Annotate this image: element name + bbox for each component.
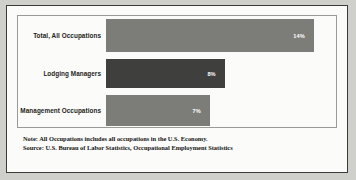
bar-track: 7% (106, 95, 336, 126)
bar-lodging-managers[interactable]: 8% (106, 59, 225, 88)
bar-total-all-occupations[interactable]: 14% (106, 19, 314, 52)
bar-value-label: 14% (293, 33, 314, 39)
bar-row: Management Occupations 7% (18, 95, 336, 126)
category-label-total-all-occupations: Total, All Occupations (18, 32, 106, 40)
bar-value-label: 8% (207, 71, 224, 77)
category-label-management-occupations: Management Occupations (18, 107, 106, 115)
bar-row: Total, All Occupations 14% (18, 19, 336, 52)
bar-row: Lodging Managers 8% (18, 59, 336, 88)
bar-value-label: 7% (193, 108, 210, 114)
bar-management-occupations[interactable]: 7% (106, 95, 210, 126)
plot-area: Total, All Occupations 14% Lodging Manag… (17, 15, 337, 128)
category-label-lodging-managers: Lodging Managers (18, 70, 106, 78)
bar-track: 8% (106, 59, 336, 88)
footnote-note: Note: All Occupations includes all occup… (23, 134, 333, 143)
bar-track: 14% (106, 19, 336, 52)
footnotes: Note: All Occupations includes all occup… (23, 134, 333, 152)
chart-figure: Total, All Occupations 14% Lodging Manag… (6, 5, 348, 173)
footnote-source: Source: U.S. Bureau of Labor Statistics,… (23, 143, 333, 152)
